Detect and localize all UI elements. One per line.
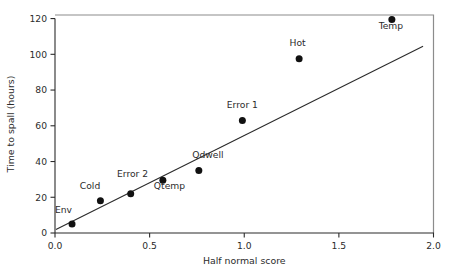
- x-tick-label-0.0: 0.0: [48, 240, 63, 251]
- y-tick-label-0: 0: [41, 227, 47, 238]
- y-tick-label-80: 80: [35, 84, 47, 95]
- plot-frame: [55, 15, 434, 233]
- data-point-env[interactable]: [69, 221, 76, 228]
- data-label-qtemp: Qtemp: [154, 180, 185, 191]
- y-axis-title: Time to spall (hours): [5, 76, 16, 174]
- data-label-qdwell: Qdwell: [192, 149, 223, 160]
- data-point-error-2[interactable]: [127, 190, 134, 197]
- data-label-error-2: Error 2: [117, 168, 148, 179]
- y-tick-label-100: 100: [29, 49, 47, 60]
- data-label-hot: Hot: [290, 37, 307, 48]
- x-tick-label-0.5: 0.5: [142, 240, 157, 251]
- x-tick-label-1.0: 1.0: [237, 240, 252, 251]
- x-tick-label-2.0: 2.0: [426, 240, 441, 251]
- data-label-temp: Temp: [378, 20, 404, 31]
- data-point-error-1[interactable]: [239, 117, 246, 124]
- y-tick-label-40: 40: [35, 156, 47, 167]
- y-tick-label-20: 20: [35, 192, 47, 203]
- x-tick-label-1.5: 1.5: [332, 240, 347, 251]
- figure-container: 0204060801001200.00.51.01.52.0Half norma…: [0, 0, 455, 272]
- data-label-cold: Cold: [80, 180, 100, 191]
- data-label-error-1: Error 1: [227, 99, 258, 110]
- data-point-cold[interactable]: [97, 197, 104, 204]
- x-axis-title: Half normal score: [203, 255, 286, 266]
- reference-line: [56, 46, 423, 229]
- data-point-hot[interactable]: [296, 55, 303, 62]
- half-normal-plot: 0204060801001200.00.51.01.52.0Half norma…: [0, 0, 455, 272]
- y-tick-label-120: 120: [29, 13, 47, 24]
- data-point-qdwell[interactable]: [195, 167, 202, 174]
- data-label-env: Env: [55, 204, 73, 215]
- y-tick-label-60: 60: [35, 120, 47, 131]
